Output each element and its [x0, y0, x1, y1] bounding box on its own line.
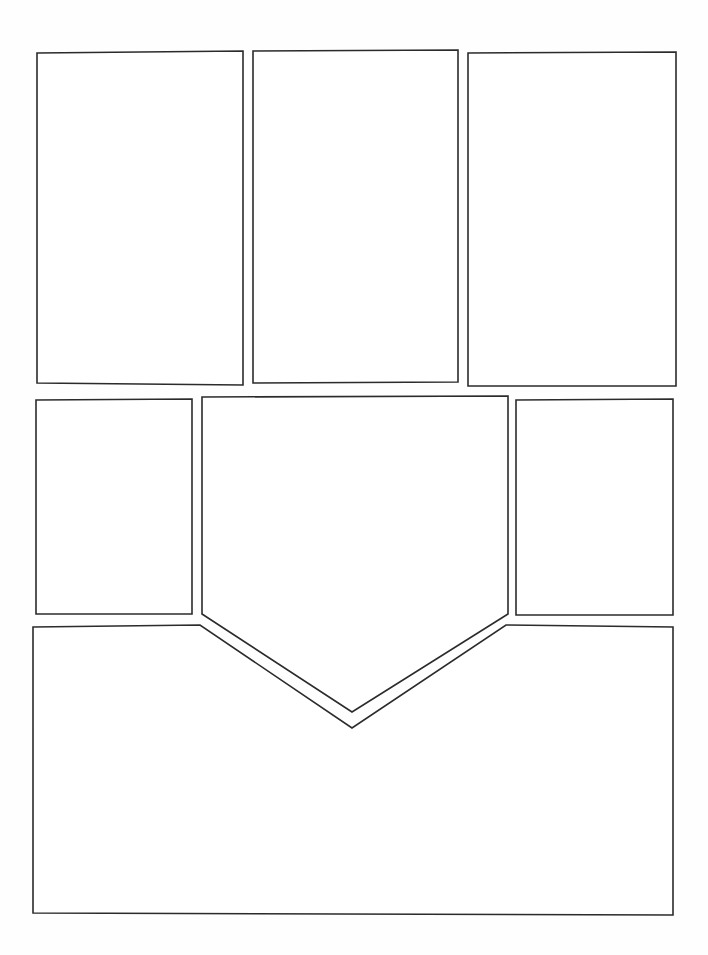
panel-6[interactable]: Panel 6	[516, 399, 673, 615]
panel-1[interactable]: Panel 1	[37, 53, 243, 385]
panel-3[interactable]: Panel 3	[468, 52, 676, 386]
comic-page: Panel 1 Panel 2 Panel 3 Panel 4 Panel 5 …	[0, 0, 708, 955]
panel-7[interactable]: Panel 7	[33, 625, 673, 915]
panel-4[interactable]: Panel 4	[36, 399, 192, 614]
panel-2[interactable]: Panel 2	[253, 50, 458, 382]
